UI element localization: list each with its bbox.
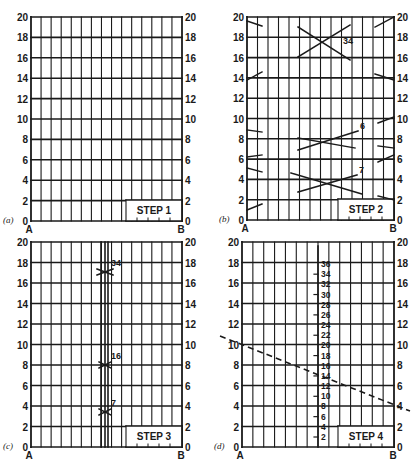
panel-a: 0022446688101012121414161618182020AB(a)S… bbox=[3, 12, 197, 235]
scale-tick-label: 18 bbox=[321, 351, 331, 361]
left-axis-tick: 4 bbox=[22, 401, 28, 412]
cross-value-label: 16 bbox=[111, 351, 121, 361]
scale-tick-label: 10 bbox=[321, 391, 331, 401]
left-axis-tick: 14 bbox=[228, 299, 240, 310]
step-label: STEP 4 bbox=[349, 431, 384, 442]
scale-tick-label: 26 bbox=[321, 310, 331, 320]
right-axis-tick: 10 bbox=[397, 114, 409, 125]
right-axis-tick: 12 bbox=[185, 319, 197, 330]
left-axis-tick: 16 bbox=[17, 53, 29, 64]
right-axis-tick: 12 bbox=[397, 319, 409, 330]
right-axis-tick: 0 bbox=[185, 442, 191, 453]
left-axis-tick: 20 bbox=[233, 12, 245, 23]
axis-a-label: A bbox=[236, 450, 243, 461]
left-axis-tick: 2 bbox=[22, 422, 28, 433]
right-axis-tick: 0 bbox=[397, 215, 403, 226]
left-axis-tick: 18 bbox=[17, 258, 29, 269]
panel-d: 0022446688101012121414161618182020AB(d)S… bbox=[214, 237, 410, 461]
scale-tick-label: 16 bbox=[321, 361, 331, 371]
left-axis-tick: 20 bbox=[17, 12, 29, 23]
right-axis-tick: 0 bbox=[397, 442, 403, 453]
left-axis-tick: 6 bbox=[238, 154, 244, 165]
left-axis-tick: 18 bbox=[228, 258, 240, 269]
right-axis-tick: 18 bbox=[397, 32, 409, 43]
scale-tick-label: 34 bbox=[321, 269, 331, 279]
left-axis-tick: 12 bbox=[17, 319, 29, 330]
dashed-solution-line bbox=[220, 336, 410, 411]
right-axis-tick: 0 bbox=[185, 216, 191, 227]
left-axis-tick: 8 bbox=[22, 134, 28, 145]
right-axis-tick: 16 bbox=[397, 53, 409, 64]
right-axis-tick: 10 bbox=[185, 114, 197, 125]
scale-tick-label: 6 bbox=[321, 412, 326, 422]
scale-tick-label: 32 bbox=[321, 279, 331, 289]
right-axis-tick: 16 bbox=[185, 53, 197, 64]
right-axis-tick: 16 bbox=[185, 278, 197, 289]
left-axis-tick: 12 bbox=[17, 94, 29, 105]
right-axis-tick: 8 bbox=[185, 134, 191, 145]
scale-tick-label: 14 bbox=[321, 371, 331, 381]
step-label: STEP 2 bbox=[349, 204, 384, 215]
scale-tick-label: 24 bbox=[321, 320, 331, 330]
cross-value-label: 34 bbox=[343, 36, 353, 46]
scale-tick-label: 8 bbox=[321, 401, 326, 411]
panel-caption: (a) bbox=[3, 215, 14, 225]
right-axis-tick: 6 bbox=[397, 154, 403, 165]
left-axis-tick: 8 bbox=[22, 360, 28, 371]
left-axis-tick: 8 bbox=[238, 134, 244, 145]
right-axis-tick: 12 bbox=[185, 94, 197, 105]
cross-value-label: 7 bbox=[111, 398, 116, 408]
right-axis-tick: 14 bbox=[185, 299, 197, 310]
horizontal-grid bbox=[31, 17, 182, 221]
cross-value-label: 34 bbox=[111, 258, 121, 268]
axis-b-label: B bbox=[177, 224, 184, 235]
left-axis-tick: 14 bbox=[17, 299, 29, 310]
left-axis-tick: 12 bbox=[228, 319, 240, 330]
right-axis-tick: 20 bbox=[397, 12, 409, 23]
left-axis-tick: 8 bbox=[233, 360, 239, 371]
result-scale: 24681012141618202224262830323436 bbox=[314, 246, 331, 447]
right-axis-tick: 18 bbox=[185, 32, 197, 43]
left-axis-tick: 18 bbox=[17, 32, 29, 43]
right-axis-tick: 20 bbox=[397, 237, 409, 248]
nomogram-figure: 0022446688101012121414161618182020AB(a)S… bbox=[0, 0, 414, 466]
right-axis-tick: 2 bbox=[185, 196, 191, 207]
right-axis-tick: 12 bbox=[397, 93, 409, 104]
left-axis-tick: 4 bbox=[238, 174, 244, 185]
right-axis-tick: 14 bbox=[185, 73, 197, 84]
right-axis-tick: 18 bbox=[185, 258, 197, 269]
axis-a-label: A bbox=[241, 223, 248, 234]
right-axis-tick: 16 bbox=[397, 278, 409, 289]
axis-b-label: B bbox=[177, 450, 184, 461]
right-axis-tick: 6 bbox=[397, 381, 403, 392]
left-axis-tick: 16 bbox=[228, 278, 240, 289]
left-axis-tick: 14 bbox=[233, 73, 245, 84]
left-axis-tick: 20 bbox=[228, 237, 240, 248]
right-axis-tick: 2 bbox=[397, 422, 403, 433]
figure-canvas: 0022446688101012121414161618182020AB(a)S… bbox=[0, 0, 414, 466]
right-axis-tick: 14 bbox=[397, 73, 409, 84]
right-axis-tick: 6 bbox=[185, 155, 191, 166]
scale-tick-label: 4 bbox=[321, 422, 326, 432]
left-axis-tick: 10 bbox=[233, 114, 245, 125]
left-axis-tick: 18 bbox=[233, 32, 245, 43]
right-axis-tick: 18 bbox=[397, 258, 409, 269]
left-axis-tick: 16 bbox=[233, 53, 245, 64]
scale-tick-label: 22 bbox=[321, 330, 331, 340]
right-axis-tick: 8 bbox=[185, 360, 191, 371]
scale-tick-label: 2 bbox=[321, 432, 326, 442]
left-axis-tick: 6 bbox=[22, 155, 28, 166]
panel-caption: (d) bbox=[214, 441, 225, 451]
panel-b: 0022446688101012121414161618182020AB(b)S… bbox=[219, 12, 409, 234]
right-axis-tick: 8 bbox=[397, 360, 403, 371]
scale-tick-label: 36 bbox=[321, 259, 331, 269]
left-axis-tick: 12 bbox=[233, 93, 245, 104]
step-label: STEP 1 bbox=[137, 205, 172, 216]
left-axis-tick: 16 bbox=[17, 278, 29, 289]
left-axis-tick: 4 bbox=[233, 401, 239, 412]
left-axis-tick: 10 bbox=[17, 114, 29, 125]
right-axis-tick: 20 bbox=[185, 237, 197, 248]
cross-value-label: 6 bbox=[360, 121, 365, 131]
left-axis-tick: 14 bbox=[17, 73, 29, 84]
axis-a-label: A bbox=[25, 224, 32, 235]
